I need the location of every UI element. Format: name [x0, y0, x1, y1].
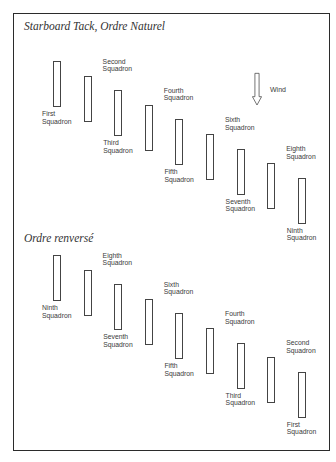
squadron-label-line2: Squadron	[225, 318, 254, 326]
wind-arrow-icon	[252, 70, 262, 110]
squadron-bar	[206, 328, 214, 374]
squadron-bar	[175, 119, 183, 165]
squadron-label-line2: Squadron	[42, 118, 71, 126]
squadron-label: NinthSquadron	[42, 304, 71, 319]
squadron-label-line1: Fourth	[164, 87, 193, 95]
squadron-bar	[175, 313, 183, 359]
squadron-label-line1: Eighth	[103, 252, 132, 260]
squadron-label-line1: First	[42, 110, 71, 118]
squadron-label-line2: Squadron	[103, 341, 132, 349]
squadron-bar	[114, 90, 122, 136]
squadron-label-line1: Seventh	[103, 333, 132, 341]
squadron-label-line1: Sixth	[225, 116, 254, 124]
squadron-label-line1: Third	[226, 392, 255, 400]
squadron-bar	[237, 149, 245, 195]
squadron-label-line1: Sixth	[164, 281, 193, 289]
squadron-bar	[84, 270, 92, 316]
squadron-label: SixthSquadron	[164, 281, 193, 296]
squadron-label-line2: Squadron	[226, 399, 255, 407]
squadron-bar	[267, 357, 275, 403]
squadron-label: SixthSquadron	[225, 116, 254, 131]
squadron-label-line2: Squadron	[287, 428, 316, 436]
squadron-label-line2: Squadron	[287, 234, 316, 242]
squadron-label-line1: First	[287, 421, 316, 429]
squadron-bar	[53, 61, 61, 107]
squadron-label-line2: Squadron	[286, 153, 315, 161]
squadron-label-line1: Fourth	[225, 310, 254, 318]
squadron-label: FirstSquadron	[42, 110, 71, 125]
squadron-label-line1: Fifth	[164, 362, 193, 370]
squadron-bar	[237, 343, 245, 389]
wind-label: Wind	[270, 86, 286, 93]
squadron-label-line1: Third	[103, 139, 132, 147]
squadron-label: FourthSquadron	[225, 310, 254, 325]
squadron-label-line1: Seventh	[226, 198, 255, 206]
squadron-label-line2: Squadron	[164, 176, 193, 184]
squadron-label-line2: Squadron	[103, 259, 132, 267]
squadron-bar	[267, 163, 275, 209]
squadron-bar	[53, 255, 61, 301]
squadron-label-line2: Squadron	[226, 205, 255, 213]
squadron-bar	[206, 134, 214, 180]
squadron-label: FirstSquadron	[287, 421, 316, 436]
squadron-label-line2: Squadron	[286, 347, 315, 355]
squadron-label: SeventhSquadron	[103, 333, 132, 348]
squadron-label-line2: Squadron	[164, 94, 193, 102]
squadron-label: NinthSquadron	[287, 227, 316, 242]
squadron-bar	[84, 76, 92, 122]
squadron-label-line1: Ninth	[42, 304, 71, 312]
squadron-label: FifthSquadron	[164, 168, 193, 183]
squadron-label: SecondSquadron	[286, 339, 315, 354]
squadron-label-line2: Squadron	[164, 288, 193, 296]
squadron-label: ThirdSquadron	[226, 392, 255, 407]
squadron-label: FifthSquadron	[164, 362, 193, 377]
squadron-label-line1: Fifth	[164, 168, 193, 176]
squadron-label: SeventhSquadron	[226, 198, 255, 213]
squadron-label-line2: Squadron	[42, 312, 71, 320]
squadron-label: ThirdSquadron	[103, 139, 132, 154]
squadron-label-line2: Squadron	[103, 147, 132, 155]
squadron-label-line1: Second	[103, 58, 132, 66]
squadron-label: EighthSquadron	[103, 252, 132, 267]
squadron-label: FourthSquadron	[164, 87, 193, 102]
diagram-title-ordre-naturel: Starboard Tack, Ordre Naturel	[24, 20, 165, 32]
squadron-label-line1: Eighth	[286, 145, 315, 153]
squadron-label-line1: Second	[286, 339, 315, 347]
squadron-bar	[145, 105, 153, 151]
squadron-label-line1: Ninth	[287, 227, 316, 235]
diagram-title-ordre-renverse: Ordre renversé	[24, 232, 93, 244]
squadron-bar	[298, 372, 306, 418]
squadron-bar	[114, 284, 122, 330]
squadron-label: SecondSquadron	[103, 58, 132, 73]
squadron-bar	[298, 178, 306, 224]
squadron-bar	[145, 299, 153, 345]
squadron-label-line2: Squadron	[103, 65, 132, 73]
squadron-label-line2: Squadron	[225, 124, 254, 132]
squadron-label-line2: Squadron	[164, 370, 193, 378]
squadron-label: EighthSquadron	[286, 145, 315, 160]
